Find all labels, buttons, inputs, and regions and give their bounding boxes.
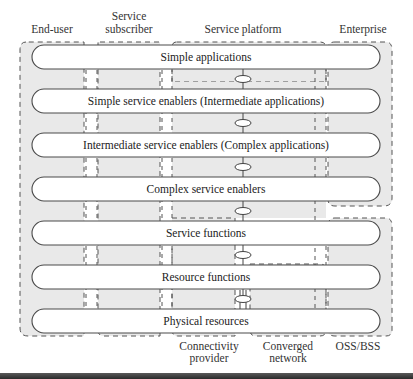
- layer-label: Intermediate service enablers (Complex a…: [83, 139, 329, 152]
- connector-ellipse: [235, 252, 251, 259]
- layer-simple-applications: Simple applications: [32, 45, 380, 69]
- connector-ellipse: [235, 208, 251, 215]
- connector-ellipse: [235, 164, 251, 171]
- connector-ellipse: [235, 120, 251, 127]
- column-label-service-subscriber-line2: subscriber: [105, 23, 152, 35]
- layer-physical-resources: Physical resources: [32, 309, 380, 333]
- column-label-end-user: End-user: [31, 23, 73, 35]
- layer-label: Service functions: [166, 227, 247, 239]
- column-labels: End-user Service subscriber Service plat…: [31, 10, 386, 36]
- bottom-label-connectivity-provider-line2: provider: [190, 352, 229, 365]
- layer-label: Resource functions: [162, 271, 251, 283]
- column-label-service-subscriber-line1: Service: [112, 10, 146, 22]
- layer-complex-service-enablers: Complex service enablers: [32, 177, 380, 201]
- column-label-service-platform: Service platform: [205, 23, 282, 36]
- column-label-enterprise: Enterprise: [339, 23, 386, 36]
- bottom-labels: Connectivity provider Converged network …: [179, 340, 380, 365]
- layer-intermediate-service-enablers-complex-applications: Intermediate service enablers (Complex a…: [32, 133, 380, 157]
- layer-label: Simple service enablers (Intermediate ap…: [88, 95, 324, 108]
- connector-ellipse: [235, 296, 251, 303]
- layer-label: Complex service enablers: [147, 183, 266, 196]
- layer-service-functions: Service functions: [32, 221, 380, 245]
- layered-architecture-diagram: Simple applicationsSimple service enable…: [0, 0, 413, 379]
- bottom-label-oss-bss: OSS/BSS: [336, 340, 381, 352]
- bottom-label-converged-network-line2: network: [269, 352, 307, 364]
- layer-label: Simple applications: [160, 51, 252, 64]
- layer-simple-service-enablers-intermediate-applications: Simple service enablers (Intermediate ap…: [32, 89, 380, 113]
- connector-ellipse: [235, 76, 251, 83]
- layer-label: Physical resources: [163, 315, 249, 328]
- layer-resource-functions: Resource functions: [32, 265, 380, 289]
- bottom-border-bar: [0, 373, 413, 379]
